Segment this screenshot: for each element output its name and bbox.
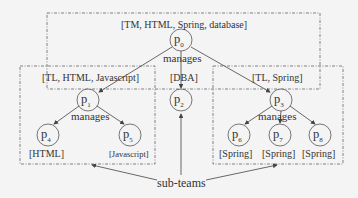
p8-skills: [Spring] [302, 149, 335, 159]
p4-skills: [HTML] [29, 149, 64, 159]
pointer-right-team [206, 165, 277, 180]
node-p4-label: p4 [41, 128, 51, 144]
p6-skills: [Spring] [219, 149, 252, 159]
pointer-left-team [92, 165, 157, 180]
middle-skills: [DBA] [170, 73, 198, 83]
node-p5-label: p5 [123, 128, 133, 144]
right-team-manages-label: manages [258, 111, 296, 122]
p5-skills: [Javascript] [109, 150, 149, 159]
node-p2-label: p2 [174, 93, 184, 109]
node-p3-label: p3 [274, 93, 284, 109]
edge-p0-p3 [191, 47, 270, 92]
p7-skills: [Spring] [262, 149, 295, 159]
left-team-skills: [TL, HTML, Javascript] [42, 73, 139, 83]
node-p0-label: p0 [174, 33, 184, 49]
top-team-manages-label: manages [163, 53, 201, 64]
sub-teams-annotation: sub-teams [157, 177, 206, 189]
node-p7-label: p7 [273, 128, 283, 144]
node-p8-label: p8 [313, 128, 323, 144]
right-team-skills: [TL, Spring] [252, 73, 303, 83]
node-p1-label: p1 [81, 93, 91, 109]
node-p6-label: p6 [232, 128, 242, 144]
top-team-skills: [TM, HTML, Spring, database] [121, 20, 247, 30]
left-team-manages-label: manages [71, 111, 109, 122]
edge-p0-p1 [99, 47, 172, 92]
